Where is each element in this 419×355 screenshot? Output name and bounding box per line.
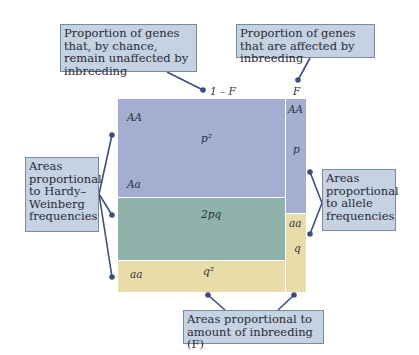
callout-affected: Proportion of genes that are affected by… (236, 24, 375, 58)
callout-allele: Areas proportional to allele frequencies (322, 169, 396, 231)
callout-unaffected: Proportion of genes that, by chance, rem… (60, 24, 197, 72)
callout-inbreeding: Areas proportional to amount of inbreedi… (183, 310, 324, 344)
callout-hardy-weinberg: Areas proportional to Hardy–Weinberg fre… (25, 157, 99, 232)
